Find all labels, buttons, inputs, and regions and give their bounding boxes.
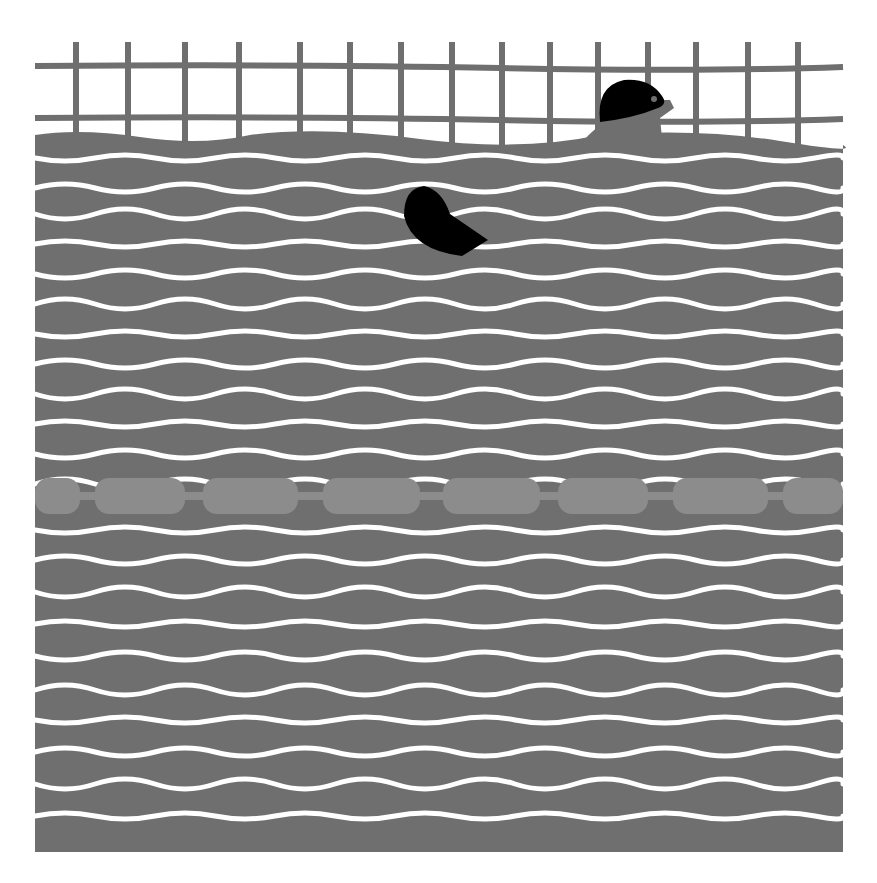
buoy bbox=[95, 478, 185, 514]
grid-post bbox=[398, 42, 404, 145]
grid-post bbox=[347, 42, 353, 145]
grid-post bbox=[449, 42, 455, 145]
buoy bbox=[443, 478, 540, 514]
grid-post bbox=[297, 42, 303, 145]
grid-post bbox=[499, 42, 505, 145]
pool-wall-grid bbox=[35, 42, 843, 145]
grid-post bbox=[236, 42, 242, 145]
grid-post bbox=[182, 42, 188, 145]
buoy bbox=[673, 478, 768, 514]
grid-rail bbox=[35, 117, 843, 121]
grid-rail bbox=[35, 65, 843, 69]
grid-post bbox=[547, 42, 553, 145]
grid-post bbox=[125, 42, 131, 145]
buoy bbox=[35, 478, 80, 514]
buoy bbox=[203, 478, 298, 514]
buoy bbox=[558, 478, 648, 514]
buoy bbox=[783, 478, 843, 514]
goggle-icon bbox=[651, 96, 657, 102]
buoy bbox=[323, 478, 420, 514]
grid-post bbox=[795, 42, 801, 145]
pool-illustration bbox=[0, 0, 877, 883]
grid-post bbox=[745, 42, 751, 145]
grid-post bbox=[693, 42, 699, 145]
grid-post bbox=[73, 42, 79, 145]
